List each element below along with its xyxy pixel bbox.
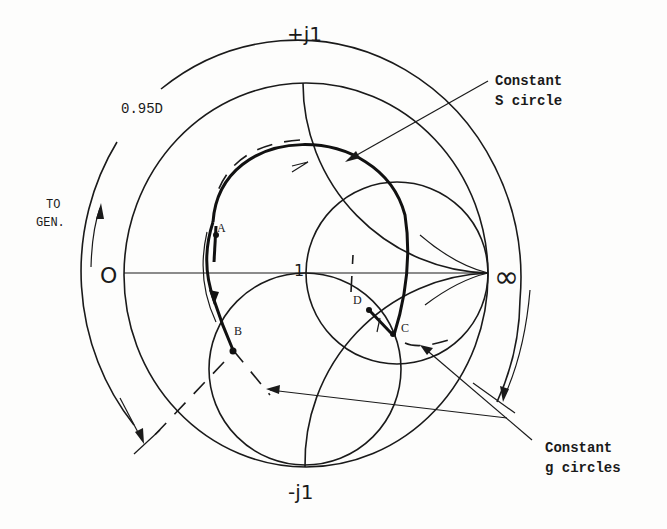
label-minus-j1: -j1: [288, 480, 314, 504]
label-to: TO: [46, 198, 60, 212]
dashed-line-b: [233, 350, 270, 395]
constant-g-circle-lower: [209, 273, 401, 465]
label-point-b: B: [234, 324, 242, 338]
callout-s-line1: Constant: [495, 73, 562, 89]
label-gen: GEN.: [36, 216, 65, 230]
callout-g-line1: Constant: [545, 440, 612, 456]
label-point-c: C: [401, 321, 409, 335]
label-plus-j1: +j1: [287, 22, 322, 46]
callout-g-leader-1: [423, 347, 532, 440]
point-d-marker: [366, 307, 372, 313]
label-point-d: D: [353, 293, 362, 307]
label-scale: 0.95D: [121, 101, 163, 117]
label-center-one: 1: [294, 261, 304, 280]
point-b-marker: [230, 348, 237, 355]
label-point-a: A: [217, 221, 226, 235]
lower-left-arrow: [120, 398, 160, 454]
callout-g-leader-2: [270, 390, 507, 418]
dashed-line-b-out: [150, 362, 224, 440]
point-c-marker: [390, 331, 396, 337]
cusp-lower: [425, 273, 488, 305]
reactance-arc-minus-j1: [305, 273, 488, 467]
to-gen-arrow: [91, 203, 104, 267]
callout-s-leader: [348, 81, 488, 160]
reactance-arc-plus-j1: [303, 83, 488, 273]
dashed-arc-upper: [215, 140, 300, 200]
callout-g-line2: g circles: [545, 460, 621, 476]
label-zero: O: [100, 263, 117, 288]
label-infinity: ∞: [494, 259, 519, 294]
path-a-to-b: [207, 222, 233, 350]
dashed-arc-c: [405, 338, 455, 346]
callout-s-line2: S circle: [495, 93, 562, 109]
smith-chart-diagram: +j1 -j1 O ∞ 1 0.95D TO GEN. A B C D Cons…: [0, 0, 667, 529]
cusp-upper: [420, 235, 488, 273]
